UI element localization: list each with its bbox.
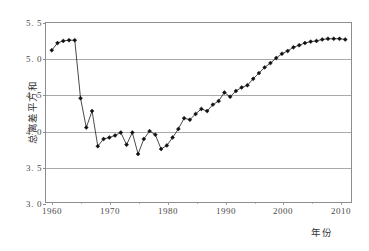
plot-area: 3. 03. 54. 04. 55. 05. 5 196019701980199… — [45, 22, 352, 203]
y-tick-mark — [43, 204, 46, 205]
data-point-marker — [90, 109, 94, 113]
x-tick-label: 1980 — [158, 207, 178, 216]
x-axis-title: 年份 — [311, 229, 333, 239]
y-tick-label: 3. 0 — [26, 200, 42, 209]
x-tick-mark — [52, 202, 53, 205]
data-point-marker — [286, 49, 290, 53]
data-point-marker — [303, 41, 307, 45]
data-point-marker — [136, 152, 140, 156]
data-point-marker — [326, 37, 330, 41]
data-point-marker — [153, 133, 157, 137]
data-point-marker — [125, 143, 129, 147]
x-tick-label: 1990 — [216, 207, 236, 216]
x-minor-tick-mark — [312, 202, 313, 204]
data-point-marker — [61, 39, 65, 43]
data-point-marker — [291, 45, 295, 49]
series-polyline — [52, 39, 345, 154]
data-point-marker — [314, 39, 318, 43]
x-tick-mark — [283, 202, 284, 205]
data-point-marker — [240, 85, 244, 89]
x-tick-mark — [168, 202, 169, 205]
x-tick-label: 2010 — [331, 207, 351, 216]
x-tick-label: 2000 — [273, 207, 293, 216]
y-tick-label: 4. 5 — [26, 91, 42, 100]
data-point-marker — [159, 147, 163, 151]
data-point-marker — [297, 43, 301, 47]
y-tick-label: 4. 0 — [26, 128, 42, 137]
x-minor-tick-mark — [197, 202, 198, 204]
data-point-marker — [79, 96, 83, 100]
x-minor-tick-mark — [139, 202, 140, 204]
x-minor-tick-mark — [255, 202, 256, 204]
data-point-marker — [182, 116, 186, 120]
x-tick-mark — [110, 202, 111, 205]
x-tick-mark — [341, 202, 342, 205]
data-point-marker — [130, 131, 134, 135]
x-tick-label: 1960 — [42, 207, 62, 216]
data-point-marker — [107, 136, 111, 140]
chart-figure: 总离差平方和 3. 03. 54. 04. 55. 05. 5 19601970… — [0, 0, 369, 251]
y-tick-label: 5. 0 — [26, 55, 42, 64]
data-point-marker — [338, 37, 342, 41]
data-point-marker — [67, 38, 71, 42]
data-point-marker — [84, 126, 88, 130]
series-line — [46, 23, 351, 202]
data-point-marker — [73, 38, 77, 42]
x-minor-tick-mark — [81, 202, 82, 204]
data-point-marker — [119, 131, 123, 135]
data-point-marker — [113, 133, 117, 137]
data-point-marker — [343, 37, 347, 41]
x-tick-label: 1970 — [100, 207, 120, 216]
data-point-marker — [320, 37, 324, 41]
y-tick-label: 3. 5 — [26, 164, 42, 173]
data-point-marker — [309, 40, 313, 44]
y-tick-label: 5. 5 — [26, 19, 42, 28]
data-point-marker — [332, 37, 336, 41]
x-tick-mark — [226, 202, 227, 205]
